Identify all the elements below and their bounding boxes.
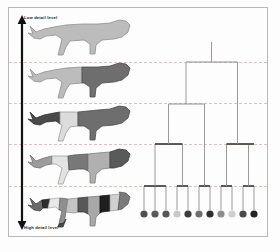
leaf-node-4[interactable] [173, 210, 180, 217]
leaf-node-2[interactable] [151, 210, 158, 217]
shape-row-level-2 [26, 57, 138, 101]
leaf-node-7[interactable] [206, 210, 213, 217]
shape-row-level-4 [26, 143, 138, 187]
leaf-node-10[interactable] [239, 210, 246, 217]
leaf-node-11[interactable] [250, 210, 257, 217]
leaf-node-5[interactable] [184, 210, 191, 217]
leaf-node-1[interactable] [140, 210, 147, 217]
shape-row-level-1 [26, 14, 138, 58]
leaf-node-8[interactable] [217, 210, 224, 217]
animal-silhouette-level-4 [28, 149, 130, 184]
leaf-node-9[interactable] [228, 210, 235, 217]
animal-silhouette-level-3 [28, 106, 130, 141]
dendrogram-panel [140, 14, 266, 230]
shape-hierarchy-panel [26, 14, 138, 230]
leaf-node-3[interactable] [162, 210, 169, 217]
dendrogram-leaf-nodes [140, 210, 257, 217]
figure-root: Low detail level High detail level [0, 0, 280, 252]
shape-row-level-5 [26, 186, 138, 230]
shape-row-level-3 [26, 100, 138, 144]
leaf-node-6[interactable] [195, 210, 202, 217]
animal-silhouette-level-5 [28, 192, 130, 227]
dendrogram-links [144, 42, 254, 210]
animal-silhouette-level-1 [28, 20, 130, 55]
animal-silhouette-level-2 [28, 63, 130, 98]
